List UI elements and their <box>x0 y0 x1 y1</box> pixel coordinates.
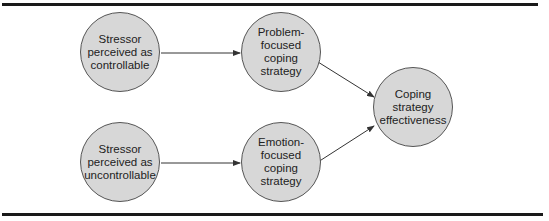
node-emotion-focused-coping: Emotion- focused coping strategy <box>241 122 321 202</box>
node-stressor-uncontrollable: Stressor perceived as uncontrollable <box>80 122 160 202</box>
node-stressor-controllable: Stressor perceived as controllable <box>80 12 160 92</box>
node-coping-effectiveness: Coping strategy effectiveness <box>373 67 453 147</box>
node-label: Coping strategy effectiveness <box>376 88 451 127</box>
node-label: Emotion- focused coping strategy <box>254 136 308 188</box>
node-label: Problem- focused coping strategy <box>254 26 309 78</box>
node-label: Stressor perceived as controllable <box>83 33 156 72</box>
edge-emotion-to-effectiveness <box>318 126 374 162</box>
node-label: Stressor perceived as uncontrollable <box>80 143 160 182</box>
edge-problem-to-effectiveness <box>318 62 374 97</box>
bottom-rule <box>2 213 543 216</box>
node-problem-focused-coping: Problem- focused coping strategy <box>241 12 321 92</box>
